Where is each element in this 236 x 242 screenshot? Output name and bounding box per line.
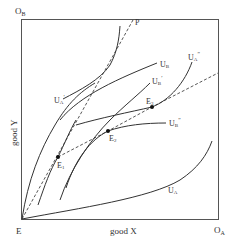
y-axis-label: good Y: [9, 119, 19, 146]
edgeworth-box-diagram: OB OA E good X good Y UA′ UB UB′ UA″ UB″…: [0, 0, 236, 242]
indifference-curve-ua: [22, 141, 212, 219]
label-ub: UB: [160, 60, 170, 69]
label-e1: E1: [57, 161, 65, 170]
expansion-path-line: [58, 73, 218, 157]
origin-a-label: OA: [214, 225, 226, 236]
indifference-curve-ub: [60, 63, 157, 120]
point-e1: [56, 155, 60, 159]
label-p: P: [135, 18, 140, 27]
indifference-curve-ub-double: [66, 123, 166, 188]
label-ub-prime: UB′: [152, 75, 163, 86]
label-ua-prime: UA′: [54, 94, 65, 105]
edgeworth-box-frame: [22, 20, 219, 220]
label-ua: UA: [168, 186, 178, 195]
label-ua-double: UA″: [188, 51, 200, 62]
origin-b-label: OB: [15, 6, 26, 17]
indifference-curve-ua-prime: [63, 26, 120, 99]
label-ub-double: UB″: [169, 117, 181, 128]
label-e2: E2: [109, 134, 117, 143]
origin-e-label: E: [16, 226, 22, 236]
point-e2: [106, 129, 110, 133]
label-e3: E3: [146, 97, 154, 106]
indifference-curve-ua-double: [76, 62, 192, 125]
x-axis-label: good X: [110, 226, 137, 236]
